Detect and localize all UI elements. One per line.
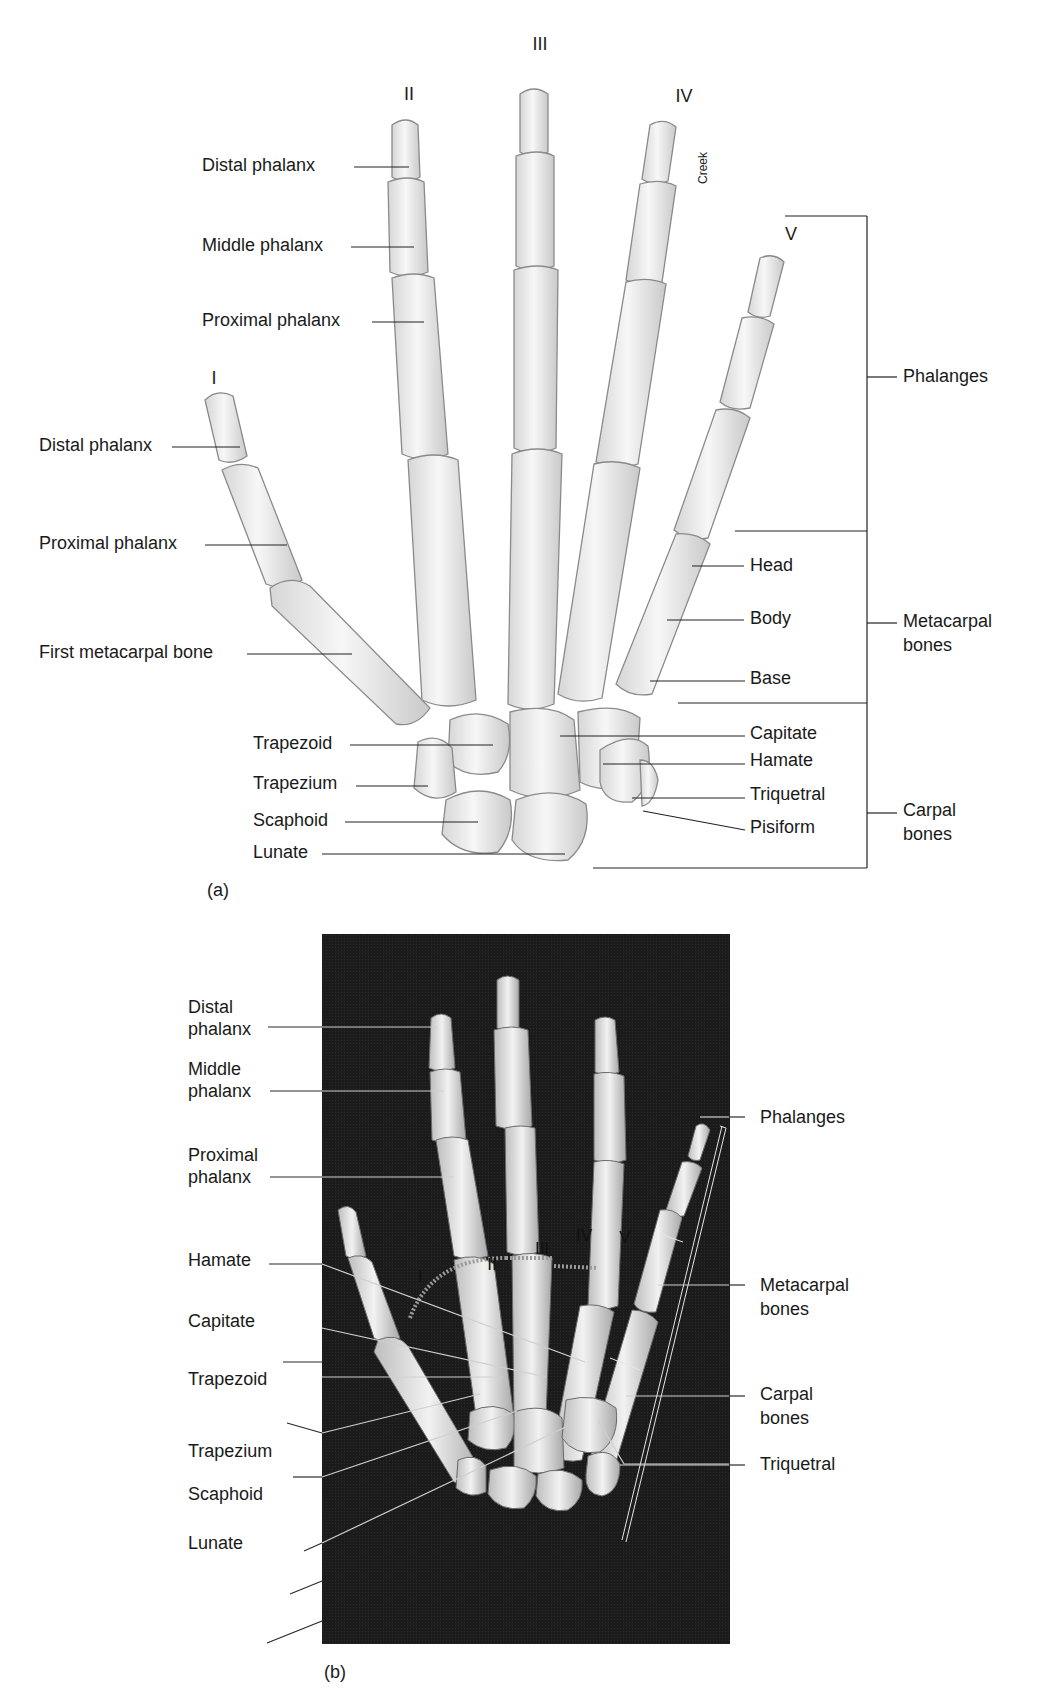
- label-b-distal: Distal: [188, 996, 233, 1018]
- caption-b: (b): [324, 1662, 346, 1683]
- figure-b-photograph: I II III IV V Distal phalanx Middle phal…: [0, 900, 1040, 1689]
- photo-bones-overlay: [0, 900, 1040, 1689]
- artist-credit: Creek: [696, 152, 710, 184]
- label-middle-phalanx: Middle phalanx: [202, 234, 323, 256]
- label-b-capitate: Capitate: [188, 1310, 255, 1332]
- thumb-bones: [205, 393, 430, 725]
- label-trapezium: Trapezium: [253, 772, 337, 794]
- label-b-lunate: Lunate: [188, 1532, 243, 1554]
- finger-numeral-iii: III: [520, 34, 560, 55]
- bracket-label-carpal-bones: bones: [903, 823, 952, 845]
- label-first-metacarpal: First metacarpal bone: [39, 641, 213, 663]
- label-b-carpal-bones: bones: [760, 1407, 809, 1429]
- label-b-distal-phalanx: phalanx: [188, 1018, 251, 1040]
- finger-iii-bones: [508, 89, 562, 709]
- label-b-scaphoid: Scaphoid: [188, 1483, 263, 1505]
- label-scaphoid: Scaphoid: [253, 809, 328, 831]
- figure-a-illustration: III II IV V I Creek Distal phalanx Middl…: [0, 0, 1040, 900]
- label-b-hamate: Hamate: [188, 1249, 251, 1271]
- label-thumb-proximal-phalanx: Proximal phalanx: [39, 532, 177, 554]
- label-pisiform: Pisiform: [750, 816, 815, 838]
- label-b-proximal-phalanx: phalanx: [188, 1166, 251, 1188]
- photo-numeral-i: I: [402, 1267, 438, 1287]
- photo-numeral-v: V: [607, 1228, 643, 1248]
- finger-numeral-iv: IV: [664, 86, 704, 107]
- label-b-middle: Middle: [188, 1058, 241, 1080]
- label-b-proximal: Proximal: [188, 1144, 258, 1166]
- label-thumb-distal-phalanx: Distal phalanx: [39, 434, 152, 456]
- bracket-label-carpal: Carpal: [903, 799, 956, 821]
- label-b-carpal: Carpal: [760, 1383, 813, 1405]
- label-body: Body: [750, 607, 791, 629]
- hand-bones-drawing: [0, 0, 1040, 900]
- label-base: Base: [750, 667, 791, 689]
- label-trapezoid: Trapezoid: [253, 732, 332, 754]
- label-triquetral: Triquetral: [750, 783, 825, 805]
- photo-numeral-iii: III: [524, 1239, 560, 1259]
- bracket-label-metacarpal: Metacarpal: [903, 610, 992, 632]
- photo-numeral-ii: II: [474, 1255, 510, 1275]
- label-capitate: Capitate: [750, 722, 817, 744]
- finger-numeral-v: V: [771, 224, 811, 245]
- bracket-label-metacarpal-bones: bones: [903, 634, 952, 656]
- label-head: Head: [750, 554, 793, 576]
- caption-a: (a): [207, 880, 229, 901]
- label-proximal-phalanx: Proximal phalanx: [202, 309, 340, 331]
- finger-ii-bones: [388, 120, 476, 706]
- label-b-trapezium: Trapezium: [188, 1440, 272, 1462]
- finger-numeral-ii: II: [389, 84, 429, 105]
- photo-numeral-iv: IV: [566, 1226, 602, 1246]
- label-b-phalanges: Phalanges: [760, 1106, 845, 1128]
- label-b-metacarpal-bones: bones: [760, 1298, 809, 1320]
- carpal-bones: [414, 708, 658, 860]
- label-lunate: Lunate: [253, 841, 308, 863]
- label-b-middle-phalanx: phalanx: [188, 1080, 251, 1102]
- label-distal-phalanx: Distal phalanx: [202, 154, 315, 176]
- label-b-trapezoid: Trapezoid: [188, 1368, 267, 1390]
- finger-numeral-i: I: [194, 368, 234, 389]
- label-hamate: Hamate: [750, 749, 813, 771]
- label-b-triquetral: Triquetral: [760, 1453, 835, 1475]
- bracket-label-phalanges: Phalanges: [903, 365, 988, 387]
- label-b-metacarpal: Metacarpal: [760, 1274, 849, 1296]
